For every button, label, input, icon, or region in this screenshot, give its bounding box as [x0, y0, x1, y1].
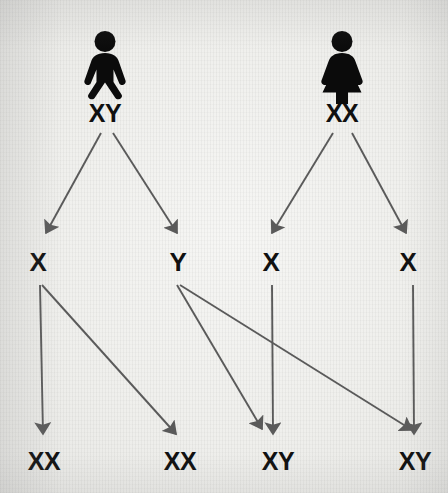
parent-figure-layer: [0, 0, 448, 493]
gamete-label-3: X: [263, 247, 280, 278]
male-figure-icon: [84, 31, 125, 99]
offspring-label-1: XX: [28, 447, 60, 476]
offspring-label-2: XX: [164, 447, 196, 476]
gamete-label-1: X: [30, 247, 47, 278]
gamete-label-2: Y: [170, 247, 187, 278]
diagram-canvas: XY XX X Y X X XX XX XY XY: [0, 0, 448, 493]
mother-genotype-label: XX: [326, 99, 358, 128]
gamete-label-4: X: [400, 247, 417, 278]
female-figure-icon: [321, 31, 362, 104]
offspring-label-4: XY: [399, 447, 431, 476]
father-genotype-label: XY: [89, 99, 121, 128]
offspring-label-3: XY: [262, 447, 294, 476]
